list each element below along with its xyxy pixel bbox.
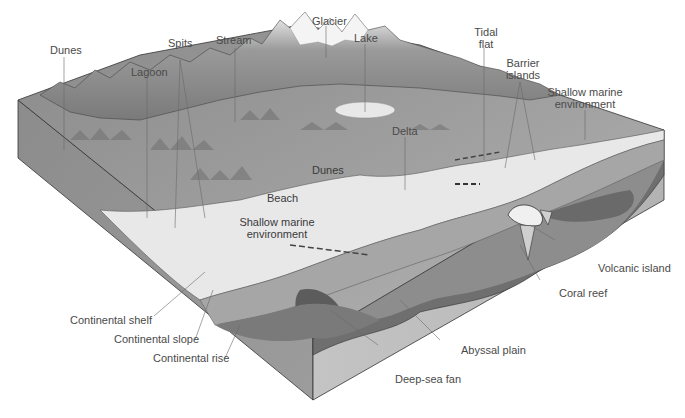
- label-shallow-marine-center-line2: environment: [247, 228, 308, 240]
- label-volcanic-island: Volcanic island: [598, 262, 671, 274]
- label-continental-rise: Continental rise: [153, 352, 229, 364]
- label-barrier-islands-line1: Barrier: [506, 57, 539, 69]
- label-tidal-flat-line2: flat: [479, 38, 494, 50]
- label-barrier-islands-line2: islands: [506, 69, 540, 81]
- label-coral-reef: Coral reef: [559, 287, 607, 299]
- label-dunes-inland: Dunes: [50, 44, 82, 56]
- label-beach: Beach: [267, 192, 298, 204]
- label-abyssal-plain: Abyssal plain: [461, 344, 526, 356]
- label-stream: Stream: [216, 34, 251, 46]
- label-shallow-marine-center-line1: Shallow marine: [239, 216, 314, 228]
- label-shallow-marine-right-line2: environment: [555, 98, 616, 110]
- label-tidal-flat-line1: Tidal: [474, 26, 497, 38]
- label-deep-sea-fan: Deep-sea fan: [395, 373, 461, 385]
- label-spits: Spits: [168, 37, 192, 49]
- label-delta: Delta: [392, 125, 418, 137]
- block-diagram-illustration: [0, 0, 685, 418]
- label-lagoon: Lagoon: [131, 66, 168, 78]
- label-continental-shelf: Continental shelf: [70, 314, 152, 326]
- label-continental-slope: Continental slope: [114, 333, 199, 345]
- label-shallow-marine-right-line1: Shallow marine: [547, 86, 622, 98]
- label-dunes-coastal: Dunes: [312, 164, 344, 176]
- label-glacier: Glacier: [312, 15, 347, 27]
- label-lake: Lake: [354, 32, 378, 44]
